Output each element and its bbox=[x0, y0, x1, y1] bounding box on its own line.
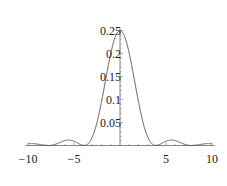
x-tick-label: −5 bbox=[68, 152, 81, 166]
y-tick-label: 0.15 bbox=[100, 70, 121, 84]
y-tick-label: 0.2 bbox=[106, 47, 121, 61]
tick-labels: −10−55100.050.10.150.20.25 bbox=[19, 24, 218, 166]
y-tick-label: 0.05 bbox=[100, 116, 121, 130]
x-tick-label: 10 bbox=[206, 152, 218, 166]
x-tick-label: 5 bbox=[163, 152, 169, 166]
y-tick-label: 0.25 bbox=[100, 24, 121, 38]
x-tick-label: −10 bbox=[19, 152, 38, 166]
y-tick-label: 0.1 bbox=[106, 93, 121, 107]
line-chart: −10−55100.050.10.150.20.25 bbox=[0, 0, 227, 186]
